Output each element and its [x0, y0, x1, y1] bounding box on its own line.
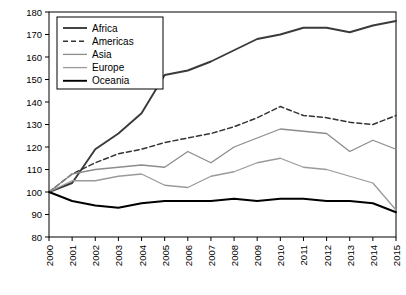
x-tick-label: 2011: [298, 245, 309, 265]
chart-container: Perception index (2000=100) 809010011012…: [0, 0, 406, 295]
y-tick-label: 160: [26, 52, 42, 63]
y-tick-label: 120: [26, 142, 42, 153]
x-tick-label: 2003: [113, 245, 124, 266]
legend-label-oceania: Oceania: [92, 75, 130, 86]
y-tick-label: 110: [27, 164, 42, 175]
legend-label-africa: Africa: [92, 23, 118, 34]
x-tick-label: 2007: [206, 245, 217, 266]
y-tick-label: 140: [26, 97, 42, 108]
x-tick-label: 2001: [67, 245, 78, 266]
x-tick-label: 2006: [183, 245, 194, 266]
legend-label-americas: Americas: [92, 36, 134, 47]
x-tick-label: 2013: [345, 245, 356, 266]
x-tick-label: 2015: [391, 245, 402, 266]
x-tick-label: 2002: [90, 245, 101, 266]
x-tick-label: 2000: [44, 245, 55, 266]
y-tick-label: 80: [31, 232, 42, 243]
x-tick-label: 2004: [137, 245, 148, 266]
x-tick-label: 2010: [275, 245, 286, 266]
line-chart: 8090100110120130140150160170180200020012…: [0, 0, 406, 295]
x-tick-label: 2008: [229, 245, 240, 266]
x-tick-label: 2012: [322, 245, 333, 266]
x-tick-label: 2009: [252, 245, 263, 266]
y-tick-label: 90: [31, 209, 42, 220]
x-tick-label: 2005: [160, 245, 171, 266]
x-tick-label: 2014: [368, 245, 379, 266]
y-tick-label: 130: [26, 119, 42, 130]
y-tick-label: 170: [26, 29, 42, 40]
y-tick-label: 100: [26, 187, 42, 198]
legend-label-asia: Asia: [92, 49, 112, 60]
y-tick-label: 150: [26, 74, 42, 85]
legend-label-europe: Europe: [92, 62, 125, 73]
y-tick-label: 180: [26, 7, 42, 18]
